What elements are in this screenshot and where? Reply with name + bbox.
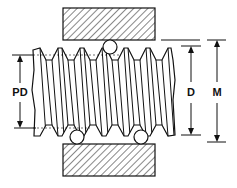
thread-measurement-diagram: PD D M <box>0 0 237 188</box>
threaded-screw <box>32 48 175 136</box>
bottom-anvil <box>63 144 155 176</box>
bottom-wire-right <box>134 130 148 144</box>
top-anvil <box>63 8 155 40</box>
pd-label: PD <box>12 86 27 98</box>
top-wire <box>103 40 117 54</box>
bottom-wire-left <box>70 130 84 144</box>
m-label: M <box>212 86 221 98</box>
d-label: D <box>187 86 195 98</box>
